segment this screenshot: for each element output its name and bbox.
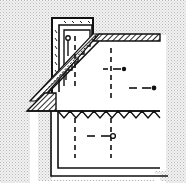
cross-section-diagram — [0, 0, 186, 192]
hatched-roof-slab — [93, 34, 160, 41]
